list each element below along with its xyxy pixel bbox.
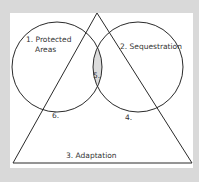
label-region-5: 5. bbox=[93, 71, 100, 80]
label-region-6: 6. bbox=[52, 111, 59, 120]
label-protected-areas-line1: 1. Protected bbox=[26, 35, 71, 44]
label-protected-areas-line2: Areas bbox=[35, 45, 56, 54]
label-adaptation: 3. Adaptation bbox=[66, 151, 117, 160]
label-sequestration: 2. Sequestration bbox=[120, 42, 182, 51]
label-region-4: 4. bbox=[125, 113, 132, 122]
